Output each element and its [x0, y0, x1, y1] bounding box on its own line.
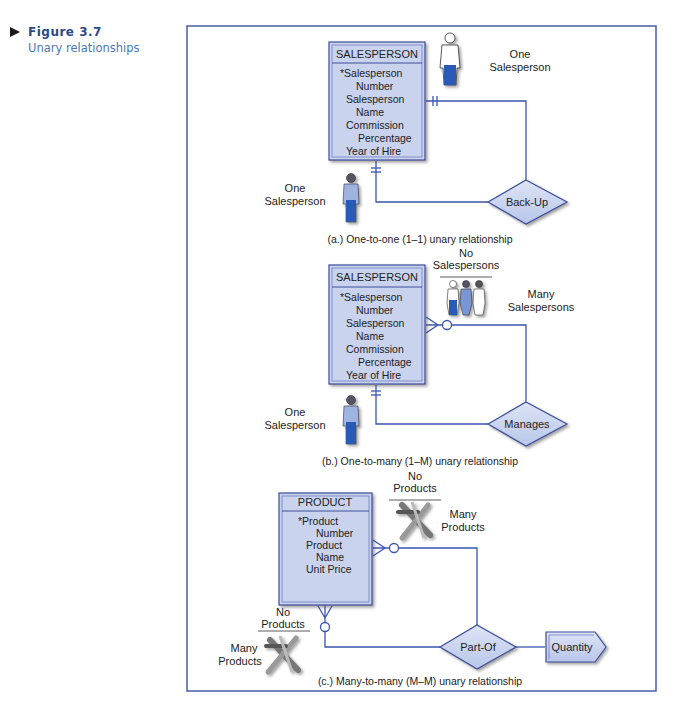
cardinality-label: Products — [441, 521, 485, 533]
cardinality-label: No — [408, 470, 422, 482]
attribute-label: Quantity — [552, 641, 593, 653]
diagram-many-to-many: PRODUCT *Product Number Product Name Uni… — [218, 470, 606, 687]
people-group-icon — [447, 281, 485, 316]
relationship-label: Part-Of — [460, 641, 496, 653]
cardinality-label: One — [285, 406, 306, 418]
entity-attribute: Name — [356, 106, 384, 118]
entity-attribute: Year of Hire — [346, 145, 401, 157]
cardinality-label: Salesperson — [264, 419, 325, 431]
entity-name: SALESPERSON — [336, 48, 418, 60]
cardinality-label: Salesperson — [489, 61, 550, 73]
person-icon — [440, 33, 460, 85]
diagram-caption: (b.) One-to-many (1–M) unary relationshi… — [322, 455, 518, 467]
entity-attribute: *Product — [298, 515, 338, 527]
entity-attribute: Salesperson — [346, 317, 405, 329]
cardinality-label: Many — [450, 508, 477, 520]
cardinality-label: Salespersons — [433, 259, 500, 271]
entity-attribute: Percentage — [358, 132, 412, 144]
entity-attribute: Commission — [346, 343, 404, 355]
entity-name: SALESPERSON — [336, 271, 418, 283]
cardinality-label: One — [510, 48, 531, 60]
cardinality-label: No — [276, 606, 290, 618]
entity-attribute: Name — [356, 330, 384, 342]
diagram-caption: (c.) Many-to-many (M–M) unary relationsh… — [318, 675, 522, 687]
person-icon — [343, 174, 359, 223]
entity-attribute: Number — [316, 527, 354, 539]
cardinality-label: Salesperson — [264, 195, 325, 207]
cardinality-label: Products — [393, 482, 437, 494]
entity-attribute: Product — [306, 539, 342, 551]
relationship-label: Manages — [504, 418, 550, 430]
entity-attribute: Percentage — [358, 356, 412, 368]
cardinality-label: Salespersons — [508, 301, 575, 313]
cardinality-label: Products — [261, 618, 305, 630]
person-icon — [343, 396, 359, 445]
tools-icon — [266, 636, 298, 672]
entity-attribute: Number — [356, 304, 394, 316]
entity-attribute: Name — [316, 551, 344, 563]
cardinality-label: Products — [218, 655, 262, 667]
cardinality-label: One — [285, 182, 306, 194]
entity-attribute: Commission — [346, 119, 404, 131]
diagram-caption: (a.) One-to-one (1–1) unary relationship — [327, 233, 512, 245]
cardinality-label: No — [459, 247, 473, 259]
relationship-label: Back-Up — [506, 196, 548, 208]
entity-attribute: Unit Price — [306, 563, 352, 575]
er-diagram: SALESPERSON *Salesperson Number Salesper… — [0, 0, 683, 720]
diagram-one-to-many: SALESPERSON *Salesperson Number Salesper… — [264, 247, 574, 467]
entity-attribute: *Salesperson — [340, 291, 403, 303]
cardinality-label: Many — [231, 642, 258, 654]
entity-name: PRODUCT — [298, 496, 353, 508]
diagram-one-to-one: SALESPERSON *Salesperson Number Salesper… — [264, 33, 567, 245]
tools-icon — [398, 502, 430, 538]
entity-attribute: Number — [356, 80, 394, 92]
cardinality-label: Many — [528, 288, 555, 300]
entity-attribute: *Salesperson — [340, 67, 403, 79]
entity-attribute: Salesperson — [346, 93, 405, 105]
entity-attribute: Year of Hire — [346, 369, 401, 381]
